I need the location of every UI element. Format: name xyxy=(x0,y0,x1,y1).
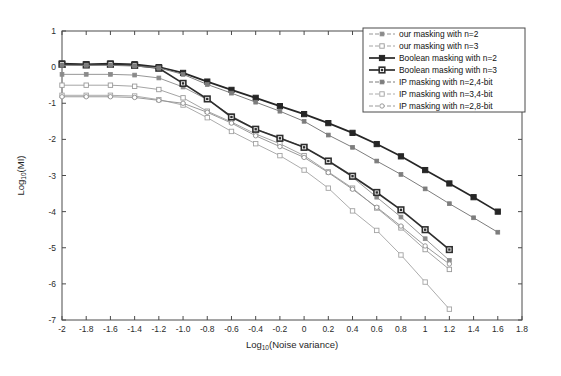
x-tick-label: -0.2 xyxy=(273,324,288,334)
series-marker-1 xyxy=(181,96,185,100)
series-marker-6 xyxy=(229,121,233,125)
x-tick-label: 0.2 xyxy=(322,324,334,334)
series-marker-6 xyxy=(423,244,427,248)
series-marker-4 xyxy=(230,91,234,95)
legend-marker-0 xyxy=(380,32,384,36)
y-axis-title: Log10(MI) xyxy=(15,156,27,196)
series-marker-6 xyxy=(278,144,282,148)
series-marker-4 xyxy=(351,145,355,149)
series-marker-2 xyxy=(398,154,403,159)
x-tick-label: -2 xyxy=(58,324,66,334)
legend-marker-2 xyxy=(379,55,384,60)
legend-marker-4 xyxy=(380,80,384,84)
x-tick-label: 1.8 xyxy=(516,324,528,334)
series-marker-4 xyxy=(181,72,185,76)
series-marker-0 xyxy=(84,72,88,76)
x-tick-label: 0.4 xyxy=(347,324,359,334)
series-marker-5 xyxy=(375,228,379,232)
legend-label-0: our masking with n=2 xyxy=(399,29,479,39)
series-marker-3-core xyxy=(206,98,208,100)
series-marker-4 xyxy=(84,63,88,67)
series-marker-3-core xyxy=(351,175,353,177)
series-marker-0 xyxy=(133,73,137,77)
x-tick-label: -0.4 xyxy=(248,324,263,334)
legend-label-2: Boolean masking with n=2 xyxy=(399,53,497,63)
series-marker-6 xyxy=(399,224,403,228)
series-marker-6 xyxy=(181,101,185,105)
x-tick-label: 1.6 xyxy=(492,324,504,334)
y-tick-label: -5 xyxy=(48,243,56,253)
series-marker-2 xyxy=(326,121,331,126)
series-marker-2 xyxy=(447,181,452,186)
y-tick-label: 1 xyxy=(51,26,56,36)
series-marker-6 xyxy=(60,95,64,99)
x-tick-label: 0.8 xyxy=(395,324,407,334)
series-marker-0 xyxy=(157,76,161,80)
series-marker-5 xyxy=(253,142,257,146)
series-marker-1 xyxy=(60,83,64,87)
series-marker-2 xyxy=(471,195,476,200)
legend-marker-5 xyxy=(380,92,384,96)
x-axis-title-text: Log10(Noise variance) xyxy=(246,339,338,351)
x-tick-label: -1.6 xyxy=(103,324,118,334)
series-marker-4 xyxy=(157,66,161,70)
series-marker-5 xyxy=(350,209,354,213)
x-tick-label: 1.2 xyxy=(443,324,455,334)
series-marker-5 xyxy=(326,186,330,190)
y-tick-label: -2 xyxy=(48,134,56,144)
legend-marker-1 xyxy=(380,44,384,48)
series-marker-4 xyxy=(472,216,476,220)
legend-marker-3-core xyxy=(381,69,383,71)
legend-label-6: IP masking with n=2,8-bit xyxy=(399,101,493,111)
legend-label-3: Boolean masking with n=3 xyxy=(399,65,497,75)
x-tick-label: -0.6 xyxy=(224,324,239,334)
series-marker-2 xyxy=(253,95,258,100)
series-marker-6 xyxy=(132,95,136,99)
series-marker-3-core xyxy=(448,248,450,250)
x-tick-label: 0 xyxy=(302,324,307,334)
series-marker-4 xyxy=(254,100,258,104)
series-marker-4 xyxy=(60,63,64,67)
y-tick-label: -4 xyxy=(48,207,56,217)
y-tick-label: -1 xyxy=(48,98,56,108)
series-marker-0 xyxy=(423,237,427,241)
series-marker-6 xyxy=(205,110,209,114)
x-tick-label: -1.2 xyxy=(152,324,167,334)
series-marker-3-core xyxy=(327,160,329,162)
series-marker-1 xyxy=(132,84,136,88)
series-marker-6 xyxy=(302,155,306,159)
series-marker-4 xyxy=(133,64,137,68)
series-marker-2 xyxy=(374,141,379,146)
series-marker-6 xyxy=(157,98,161,102)
series-marker-6 xyxy=(447,262,451,266)
series-marker-6 xyxy=(253,134,257,138)
series-marker-4 xyxy=(375,159,379,163)
x-tick-label: 1.4 xyxy=(468,324,480,334)
x-tick-label: -1.4 xyxy=(127,324,142,334)
series-marker-6 xyxy=(350,187,354,191)
legend: our masking with n=2our masking with n=3… xyxy=(363,28,525,112)
series-marker-2 xyxy=(277,104,282,109)
legend-marker-6 xyxy=(380,104,384,108)
series-marker-3-core xyxy=(182,82,184,84)
series-marker-5 xyxy=(205,116,209,120)
series-marker-0 xyxy=(399,215,403,219)
series-marker-0 xyxy=(109,72,113,76)
y-tick-label: -3 xyxy=(48,171,56,181)
series-marker-3-core xyxy=(230,116,232,118)
series-marker-5 xyxy=(399,253,403,257)
series-marker-3-core xyxy=(279,137,281,139)
series-marker-6 xyxy=(84,95,88,99)
series-marker-2 xyxy=(350,130,355,135)
chart-figure: -2-1.8-1.6-1.4-1.2-1.0-0.8-0.6-0.4-0.200… xyxy=(0,0,561,376)
x-tick-label: -1.0 xyxy=(176,324,191,334)
series-marker-2 xyxy=(302,111,307,116)
y-tick-label: 0 xyxy=(51,62,56,72)
series-marker-3-core xyxy=(376,191,378,193)
series-marker-2 xyxy=(423,167,428,172)
series-marker-3-core xyxy=(303,146,305,148)
series-marker-1 xyxy=(157,87,161,91)
series-marker-6 xyxy=(375,205,379,209)
series-marker-6 xyxy=(108,95,112,99)
series-marker-5 xyxy=(302,168,306,172)
